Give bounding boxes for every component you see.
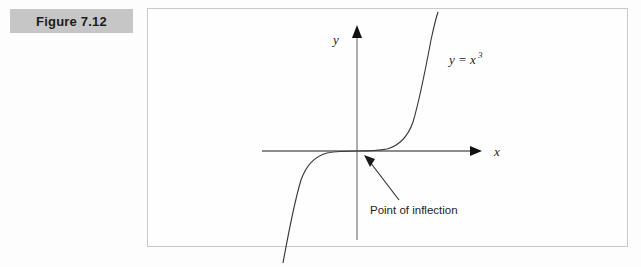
inflection-annotation-label: Point of inflection — [370, 204, 458, 216]
inflection-annotation-line — [370, 162, 399, 200]
cubic-function-plot: y x y = x 3 Point of inflection — [0, 0, 641, 267]
curve-equation-label: y = x — [447, 52, 476, 67]
inflection-annotation-arrowhead — [364, 155, 375, 167]
y-axis-label: y — [331, 32, 339, 47]
cubic-curve — [283, 12, 438, 263]
curve-equation-exponent: 3 — [477, 50, 483, 60]
figure-page: Figure 7.12 y x y = x 3 Point of inflect… — [0, 0, 641, 267]
x-axis-arrowhead — [470, 146, 482, 156]
x-axis-label: x — [493, 144, 500, 159]
y-axis-arrowhead — [352, 25, 362, 38]
